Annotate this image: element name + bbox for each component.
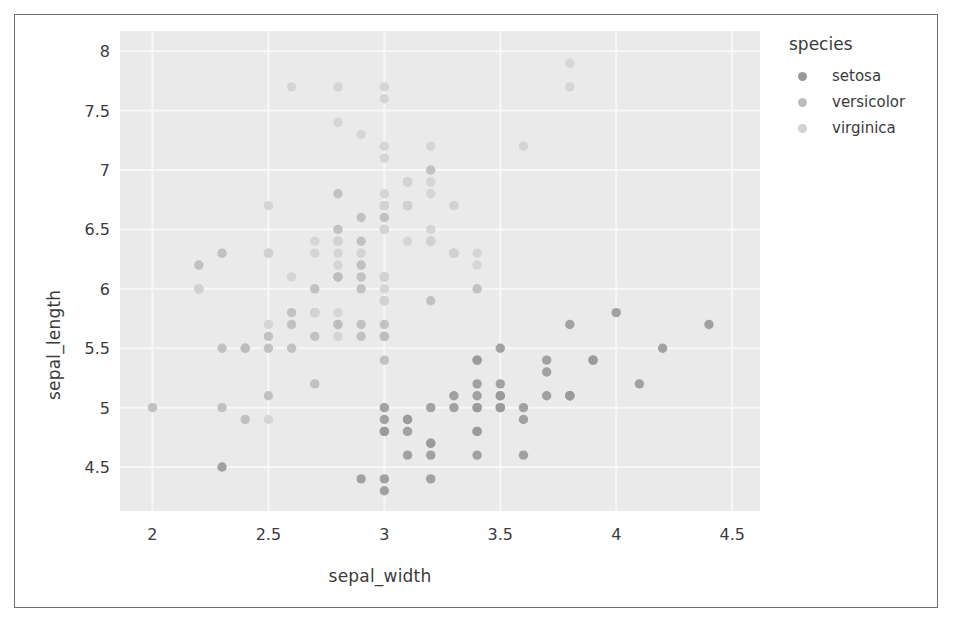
data-point bbox=[426, 450, 435, 459]
data-point bbox=[356, 284, 365, 293]
data-point bbox=[380, 320, 389, 329]
data-point bbox=[472, 379, 481, 388]
data-point bbox=[380, 201, 389, 210]
data-point bbox=[380, 296, 389, 305]
legend-item-virginica[interactable]: virginica bbox=[789, 115, 939, 141]
data-point bbox=[449, 403, 458, 412]
x-tick-label: 3 bbox=[379, 525, 389, 544]
data-point bbox=[356, 130, 365, 139]
data-point bbox=[704, 320, 713, 329]
data-point bbox=[264, 332, 273, 341]
data-point bbox=[217, 248, 226, 257]
data-point bbox=[403, 427, 412, 436]
data-point bbox=[310, 237, 319, 246]
data-point bbox=[356, 474, 365, 483]
data-point bbox=[426, 439, 435, 448]
legend-item-label: setosa bbox=[832, 67, 881, 85]
data-point bbox=[472, 355, 481, 364]
x-tick-label: 2.5 bbox=[256, 525, 281, 544]
data-point bbox=[496, 391, 505, 400]
data-point bbox=[519, 415, 528, 424]
data-point bbox=[333, 225, 342, 234]
data-point bbox=[542, 391, 551, 400]
data-point bbox=[403, 450, 412, 459]
legend-item-versicolor[interactable]: versicolor bbox=[789, 89, 939, 115]
data-point bbox=[380, 284, 389, 293]
data-point bbox=[403, 201, 412, 210]
data-point bbox=[310, 248, 319, 257]
data-point bbox=[380, 403, 389, 412]
data-point bbox=[380, 153, 389, 162]
data-point bbox=[496, 344, 505, 353]
data-point bbox=[449, 248, 458, 257]
data-point bbox=[356, 248, 365, 257]
data-point bbox=[241, 415, 250, 424]
legend-title: species bbox=[789, 34, 939, 54]
data-point bbox=[426, 296, 435, 305]
data-point bbox=[380, 213, 389, 222]
data-point bbox=[380, 355, 389, 364]
y-tick-label: 5 bbox=[62, 398, 110, 417]
legend: species setosaversicolorvirginica bbox=[789, 34, 939, 141]
data-point bbox=[426, 165, 435, 174]
data-point bbox=[426, 225, 435, 234]
x-tick-label: 3.5 bbox=[488, 525, 513, 544]
data-point bbox=[194, 260, 203, 269]
data-point bbox=[310, 332, 319, 341]
data-point bbox=[380, 189, 389, 198]
data-point bbox=[333, 237, 342, 246]
data-point bbox=[449, 201, 458, 210]
data-point bbox=[612, 308, 621, 317]
data-point bbox=[333, 189, 342, 198]
data-point bbox=[264, 201, 273, 210]
x-axis-label: sepal_width bbox=[0, 566, 760, 586]
data-point bbox=[333, 308, 342, 317]
data-point bbox=[310, 379, 319, 388]
data-point bbox=[449, 391, 458, 400]
data-point bbox=[333, 320, 342, 329]
data-point bbox=[380, 82, 389, 91]
data-point bbox=[264, 391, 273, 400]
data-point bbox=[565, 391, 574, 400]
data-point bbox=[519, 403, 528, 412]
legend-item-setosa[interactable]: setosa bbox=[789, 63, 939, 89]
data-point bbox=[403, 177, 412, 186]
data-point bbox=[519, 142, 528, 151]
data-point bbox=[565, 320, 574, 329]
data-point bbox=[472, 450, 481, 459]
data-point bbox=[565, 58, 574, 67]
y-tick-label: 6 bbox=[62, 279, 110, 298]
data-point bbox=[148, 403, 157, 412]
data-point bbox=[264, 415, 273, 424]
y-axis-label: sepal_length bbox=[44, 290, 64, 400]
data-point bbox=[380, 415, 389, 424]
data-point bbox=[565, 82, 574, 91]
data-point bbox=[380, 486, 389, 495]
data-point bbox=[333, 272, 342, 281]
y-tick-label: 5.5 bbox=[62, 339, 110, 358]
data-point bbox=[310, 284, 319, 293]
data-point bbox=[496, 379, 505, 388]
data-point bbox=[519, 450, 528, 459]
data-point bbox=[333, 82, 342, 91]
legend-entries: setosaversicolorvirginica bbox=[789, 63, 939, 141]
data-point bbox=[356, 272, 365, 281]
data-point bbox=[380, 332, 389, 341]
legend-marker-icon bbox=[798, 124, 807, 133]
data-point bbox=[380, 427, 389, 436]
data-point bbox=[542, 367, 551, 376]
y-tick-label: 6.5 bbox=[62, 220, 110, 239]
data-point bbox=[310, 308, 319, 317]
data-point bbox=[426, 142, 435, 151]
y-tick-label: 7.5 bbox=[62, 101, 110, 120]
data-point bbox=[217, 344, 226, 353]
data-point bbox=[403, 237, 412, 246]
x-tick-label: 2 bbox=[147, 525, 157, 544]
data-point bbox=[472, 403, 481, 412]
data-point bbox=[472, 427, 481, 436]
data-point bbox=[380, 142, 389, 151]
data-point bbox=[333, 332, 342, 341]
y-tick-label: 8 bbox=[62, 42, 110, 61]
data-point bbox=[426, 237, 435, 246]
data-point bbox=[356, 332, 365, 341]
